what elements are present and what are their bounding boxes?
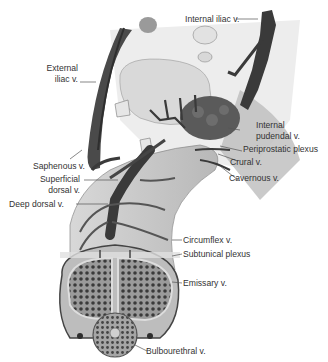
label-cavernous-vein: Cavernous v. bbox=[229, 173, 279, 183]
label-external-iliac-vein-line2: iliac v. bbox=[20, 74, 78, 84]
label-emissary-vein: Emissary v. bbox=[183, 278, 227, 288]
label-bulbourethral-vein: Bulbourethral v. bbox=[146, 346, 206, 356]
label-periprostatic-plexus: Periprostatic plexus bbox=[243, 144, 318, 154]
label-saphenous-vein: Saphenous v. bbox=[33, 161, 85, 171]
label-crural-vein: Crural v. bbox=[230, 157, 262, 167]
label-circumflex-vein: Circumflex v. bbox=[183, 235, 232, 245]
label-internal-pudendal-vein-line2: pudendal v. bbox=[256, 131, 300, 141]
label-superficial-dorsal-vein-line1: Superficial bbox=[4, 174, 80, 184]
anatomy-figure: Internal iliac v. External iliac v. Inte… bbox=[0, 0, 328, 362]
label-superficial-dorsal-vein-line2: dorsal v. bbox=[4, 185, 80, 195]
corpus-cavernosum-left bbox=[68, 258, 112, 319]
label-deep-dorsal-vein: Deep dorsal v. bbox=[9, 199, 64, 209]
label-external-iliac-vein-line1: External bbox=[20, 63, 78, 73]
label-internal-iliac-vein: Internal iliac v. bbox=[185, 14, 239, 24]
label-internal-pudendal-vein-line1: Internal bbox=[256, 120, 285, 130]
label-subtunical-plexus: Subtunical plexus bbox=[183, 249, 250, 259]
